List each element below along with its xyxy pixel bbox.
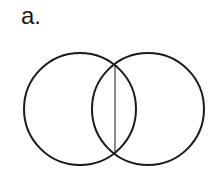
venn-diagram	[0, 0, 211, 183]
right-circle	[92, 53, 204, 165]
left-circle	[24, 53, 136, 165]
